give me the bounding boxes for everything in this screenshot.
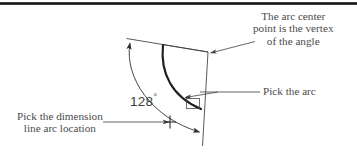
pick-arc-note: Pick the arc	[263, 85, 316, 97]
leader-arc-center	[211, 42, 256, 54]
dimension-arc	[129, 43, 199, 132]
angle-dimension-number: 128	[130, 94, 153, 109]
top-rule	[0, 2, 357, 5]
arc-center-note: The arc center point is the vertex of th…	[253, 10, 333, 47]
arc-center-note-line-3: of the angle	[253, 35, 333, 47]
angle-dimension-value: 128°	[130, 92, 157, 109]
angle-leg-right	[203, 52, 209, 146]
pick-arc-note-line-1: Pick the arc	[263, 85, 316, 97]
arc-center-note-line-2: point is the vertex	[253, 22, 333, 34]
diagram-canvas: The arc center point is the vertex of th…	[0, 0, 357, 160]
construction-line	[163, 45, 209, 53]
leader-pick-arc-arrow	[185, 92, 218, 98]
object-arc	[163, 45, 201, 109]
dimension-location-note-line-2: line arc location	[17, 122, 103, 134]
dimension-location-note-line-1: Pick the dimension	[17, 110, 103, 122]
degree-symbol: °	[153, 92, 157, 102]
arc-center-note-line-1: The arc center	[253, 10, 333, 22]
dimension-location-note: Pick the dimension line arc location	[17, 110, 103, 135]
